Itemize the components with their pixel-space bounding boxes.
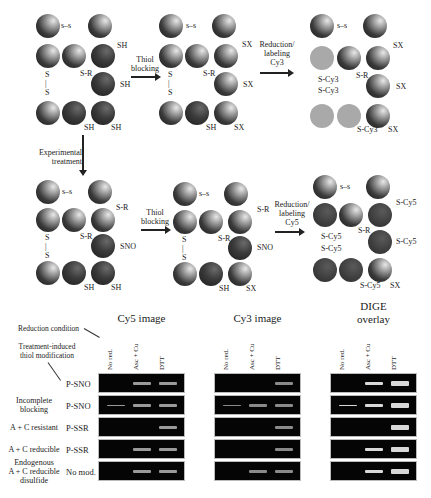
gel-band: [391, 381, 409, 386]
pointer-arrow-icon: [84, 328, 100, 338]
lane-label: No red.: [338, 349, 346, 370]
thiol-label: S-R: [358, 226, 370, 235]
thiol-label: SNO: [257, 243, 273, 252]
gel-row: [214, 461, 301, 481]
lane-label: Asc + Cu: [364, 343, 372, 370]
gel-row: [214, 417, 301, 437]
cysteine-ball: [91, 101, 115, 125]
gel-row: [330, 395, 417, 415]
thiol-label: SNO: [120, 242, 136, 251]
cysteine-ball: [36, 101, 60, 125]
gel-row: [330, 439, 417, 459]
gel-cy3: [214, 373, 301, 483]
step-label-reduction-cy3: Reduction/ labeling Cy3: [252, 40, 302, 67]
cy3-labeled-ball: [310, 46, 334, 70]
gel-band: [107, 405, 125, 406]
gel-band: [133, 448, 151, 451]
gel-band: [133, 382, 151, 385]
disulfide-bond-label: s–s: [340, 183, 350, 191]
gel-band: [223, 405, 241, 406]
cysteine-ball: [366, 74, 390, 98]
gel-band: [275, 470, 293, 473]
thiol-label: S-R: [203, 69, 215, 78]
arrow-right-icon: [131, 76, 157, 78]
gel-band: [365, 382, 383, 385]
cysteine-ball: [62, 261, 86, 285]
modification-label: P-SSR: [66, 423, 89, 433]
gel-row: [330, 417, 417, 437]
arrow-right-icon: [275, 231, 301, 233]
cysteine-ball: [62, 208, 86, 232]
cysteine-ball: [212, 14, 236, 38]
cysteine-ball: [214, 101, 238, 125]
gel-band: [159, 470, 177, 473]
gel-cy5: [98, 373, 185, 483]
thiol-label: S-Cy5: [360, 281, 380, 290]
disulfide-bond-label: s–s: [199, 190, 209, 198]
cysteine-ball: [313, 175, 337, 199]
gel-row: [98, 395, 185, 415]
modification-label: P-SSR: [66, 445, 89, 455]
cysteine-ball: [159, 44, 183, 68]
gel-band: [275, 448, 293, 451]
gel-row: [214, 439, 301, 459]
cysteine-ball: [185, 101, 209, 125]
thiol-label: SH: [206, 123, 216, 132]
gel-band: [159, 426, 177, 429]
thiol-label: SH: [84, 123, 94, 132]
cysteine-ball: [159, 14, 183, 38]
thiol-label: S-R: [80, 69, 92, 78]
gel-band: [391, 447, 409, 452]
cysteine-ball: [366, 175, 390, 199]
thiol-label: S-R: [356, 71, 368, 80]
row-category-label: EndogenousA + C reducibledisulfide: [2, 458, 66, 485]
cysteine-ball: [214, 72, 238, 96]
cysteine-ball: [159, 101, 183, 125]
cysteine-ball: [214, 44, 238, 68]
cysteine-ball: [228, 236, 252, 260]
gel-row: [214, 373, 301, 393]
gel-band: [133, 404, 151, 407]
thiol-label: SX: [390, 281, 400, 290]
cysteine-ball: [337, 46, 361, 70]
pointer-arrow-icon: [48, 362, 61, 381]
lane-label: DTT: [390, 356, 398, 370]
gel-row: [330, 461, 417, 481]
cysteine-ball: [36, 44, 60, 68]
gel-band: [339, 405, 357, 406]
thiol-label: S-Cy3: [357, 125, 377, 134]
cysteine-ball: [173, 262, 197, 286]
disulfide-bond-label: s–s: [62, 188, 72, 196]
cysteine-ball: [199, 262, 223, 286]
modification-label: No mod.: [66, 467, 96, 477]
cy5-labeled-ball: [368, 230, 392, 254]
gel-title-cy5: Cy5 image: [98, 312, 185, 324]
thiol-label: SH: [117, 41, 127, 50]
thiol-label: SH: [84, 283, 94, 292]
vertical-disulfide: S|S: [45, 233, 49, 260]
row-category-label: Incompleteblocking: [2, 396, 66, 414]
lane-label: DTT: [158, 356, 166, 370]
gel-title-dige: DIGE overlay: [330, 300, 417, 326]
thiol-label: SX: [243, 80, 253, 89]
thiol-label: S-R: [80, 232, 92, 241]
cysteine-ball: [88, 180, 112, 204]
cy5-labeled-ball: [339, 258, 363, 282]
gel-band: [275, 382, 293, 385]
gel-band: [391, 469, 409, 474]
cysteine-ball: [339, 203, 363, 227]
thiol-label: S-Cy5: [396, 198, 416, 207]
cysteine-ball: [228, 210, 252, 234]
gel-row: [98, 417, 185, 437]
step-label-experimental-treatment: Experimental treatment: [30, 148, 82, 166]
modification-label: P-SNO: [66, 379, 91, 389]
gel-band: [365, 448, 383, 451]
step-label-thiol-blocking: Thiol blocking: [128, 55, 162, 73]
modification-label: P-SNO: [66, 401, 91, 411]
lane-label: No red.: [222, 349, 230, 370]
gel-title-cy3: Cy3 image: [214, 312, 301, 324]
cy5-labeled-ball: [368, 203, 392, 227]
disulfide-bond-label: s–s: [61, 22, 71, 30]
arrow-down-icon: [82, 135, 84, 171]
cysteine-ball: [228, 262, 252, 286]
